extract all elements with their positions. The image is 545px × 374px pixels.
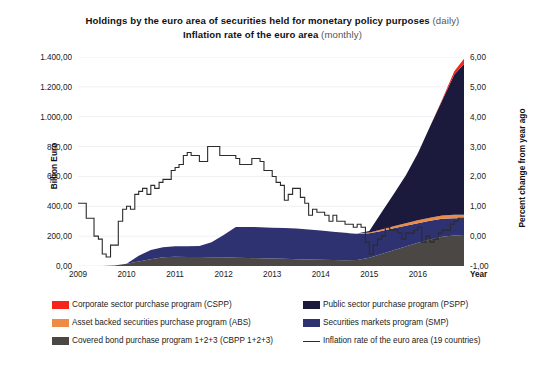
legend-item-cspp[interactable]: Corporate sector purchase program (CSPP) bbox=[52, 296, 273, 313]
legend-item-inflation[interactable]: Inflation rate of the euro area (19 coun… bbox=[303, 332, 480, 349]
legend-item-pspp[interactable]: Public sector purchase program (PSPP) bbox=[303, 296, 480, 313]
legend-swatch-icon bbox=[52, 319, 69, 327]
legend-item-cbpp[interactable]: Covered bond purchase program 1+2+3 (CBP… bbox=[52, 332, 273, 349]
legend-item-abs[interactable]: Asset backed securities purchase program… bbox=[52, 314, 273, 331]
legend-column-left: Corporate sector purchase program (CSPP)… bbox=[52, 296, 273, 350]
y-axis-left-tick: 1.200,00 bbox=[40, 82, 72, 91]
x-axis-tick: 2010 bbox=[117, 270, 135, 279]
y-axis-left-tick: 200,00 bbox=[47, 232, 72, 241]
x-axis-tick: 2011 bbox=[166, 270, 184, 279]
x-axis-tick: 2015 bbox=[360, 270, 378, 279]
plot-area bbox=[78, 57, 464, 266]
chart-title-line-1-qualifier: (daily) bbox=[433, 15, 460, 26]
legend-label: Inflation rate of the euro area (19 coun… bbox=[323, 336, 480, 346]
y-axis-right-tick: 3,00 bbox=[470, 142, 486, 151]
y-axis-right-tick: 5,00 bbox=[470, 82, 486, 91]
legend-label: Corporate sector purchase program (CSPP) bbox=[72, 300, 232, 310]
y-axis-right-title: Percent change from year ago bbox=[517, 98, 527, 238]
legend-line-icon bbox=[303, 341, 320, 342]
chart-title-line-1-main: Holdings by the euro area of securities … bbox=[86, 15, 430, 26]
legend-label: Public sector purchase program (PSPP) bbox=[323, 300, 468, 310]
chart-title-line-1: Holdings by the euro area of securities … bbox=[0, 14, 545, 28]
chart-root: Holdings by the euro area of securities … bbox=[0, 0, 545, 374]
chart-title-line-2-qualifier: (monthly) bbox=[321, 29, 362, 40]
legend-swatch-icon bbox=[303, 319, 320, 327]
y-axis-left-tick: 1.400,00 bbox=[40, 53, 72, 62]
x-axis-tick: 2014 bbox=[312, 270, 330, 279]
legend-swatch-icon bbox=[52, 301, 69, 309]
plot-canvas bbox=[78, 57, 464, 266]
y-axis-right-tick: 0,00 bbox=[470, 232, 486, 241]
chart-legend: Corporate sector purchase program (CSPP)… bbox=[0, 296, 545, 358]
chart-title-line-2: Inflation rate of the euro area (monthly… bbox=[0, 28, 545, 42]
legend-swatch-icon bbox=[52, 337, 69, 345]
y-axis-right-tick: 1,00 bbox=[470, 202, 486, 211]
y-axis-left-title: Billion Euro bbox=[49, 106, 59, 226]
y-axis-right-tick: 4,00 bbox=[470, 112, 486, 121]
legend-column-right: Public sector purchase program (PSPP)Sec… bbox=[303, 296, 480, 350]
chart-title-line-2-main: Inflation rate of the euro area bbox=[183, 29, 318, 40]
x-axis-tick: 2016 bbox=[409, 270, 427, 279]
x-axis-tick: 2009 bbox=[69, 270, 87, 279]
x-axis-tick: 2012 bbox=[215, 270, 233, 279]
legend-label: Covered bond purchase program 1+2+3 (CBP… bbox=[72, 336, 273, 346]
legend-item-smp[interactable]: Securities markets program (SMP) bbox=[303, 314, 480, 331]
y-axis-right-tick: 2,00 bbox=[470, 172, 486, 181]
legend-label: Asset backed securities purchase program… bbox=[72, 318, 251, 328]
legend-swatch-icon bbox=[303, 301, 320, 309]
chart-title-block: Holdings by the euro area of securities … bbox=[0, 14, 545, 42]
legend-label: Securities markets program (SMP) bbox=[323, 318, 449, 328]
x-axis-title: Year bbox=[470, 270, 487, 279]
y-axis-right-tick: 6,00 bbox=[470, 53, 486, 62]
x-axis-tick: 2013 bbox=[263, 270, 281, 279]
